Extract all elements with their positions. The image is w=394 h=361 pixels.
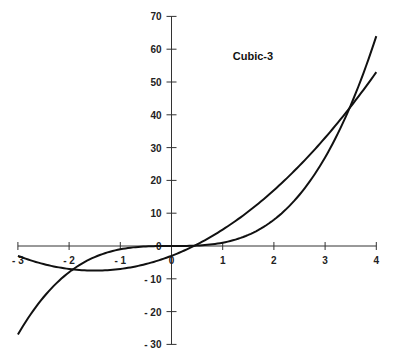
x-tick-label: 4: [374, 255, 380, 266]
x-tick-label: 1: [220, 255, 226, 266]
x-tick-label: - 1: [114, 255, 126, 266]
y-tick-label: 60: [150, 44, 162, 55]
y-tick-label: - 30: [144, 339, 162, 350]
y-tick-label: 10: [150, 208, 162, 219]
chart-title: Cubic-3: [233, 50, 273, 62]
y-tick-label: - 20: [144, 307, 162, 318]
y-tick-label: 70: [150, 11, 162, 22]
y-tick-label: - 10: [144, 274, 162, 285]
y-tick-label: 50: [150, 77, 162, 88]
y-tick-label: 20: [150, 175, 162, 186]
curves: [18, 36, 376, 334]
series-line-2: [18, 72, 376, 270]
y-tick-label: 30: [150, 143, 162, 154]
x-tick-label: 2: [271, 255, 277, 266]
axes: - 3- 2- 101234- 30- 20- 1001020304050607…: [12, 11, 379, 350]
y-tick-label: 40: [150, 110, 162, 121]
x-tick-label: - 2: [63, 255, 75, 266]
cubic-chart: - 3- 2- 101234- 30- 20- 1001020304050607…: [0, 0, 394, 361]
series-line-1: [18, 36, 376, 334]
x-tick-label: 3: [322, 255, 328, 266]
